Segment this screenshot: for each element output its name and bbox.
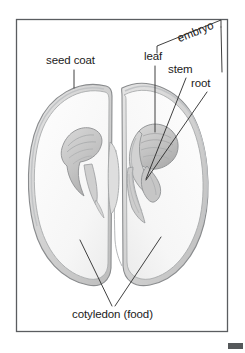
label-stem: stem bbox=[168, 64, 193, 76]
label-root: root bbox=[191, 78, 210, 90]
label-leaf: leaf bbox=[144, 51, 162, 63]
label-seed-coat: seed coat bbox=[46, 55, 95, 67]
corner-mark bbox=[228, 343, 243, 349]
label-cotyledon: cotyledon (food) bbox=[72, 309, 153, 321]
seed-diagram-figure: seed coat embryo leaf stem root cotyledo… bbox=[0, 0, 245, 353]
seed-diagram-canvas bbox=[0, 0, 245, 353]
